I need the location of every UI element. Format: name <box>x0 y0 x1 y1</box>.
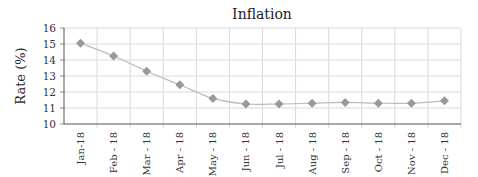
y-tick-label: 12 <box>43 86 56 98</box>
data-point-marker <box>308 99 317 108</box>
y-tick-label: 10 <box>43 118 56 130</box>
line-chart: Inflation Rate (%) 10111213141516 Jan-18… <box>0 0 478 177</box>
y-tick-label: 14 <box>43 54 57 66</box>
data-point-marker <box>440 96 449 105</box>
data-point-marker <box>175 80 184 89</box>
data-point-marker <box>142 67 151 76</box>
data-point-marker <box>374 99 383 108</box>
x-tick-label: Nov - 18 <box>406 132 417 175</box>
x-tick-label: Jul - 18 <box>274 132 285 169</box>
data-point-marker <box>109 52 118 61</box>
data-point-marker <box>341 98 350 107</box>
x-tick-label: Aug - 18 <box>307 132 318 176</box>
x-tick-label: Mar - 18 <box>141 132 152 175</box>
x-tick-label: May - 18 <box>207 132 218 176</box>
x-tick-label: Feb - 18 <box>108 132 119 173</box>
x-tick-label: Jun - 18 <box>240 132 251 172</box>
data-point-marker <box>241 100 250 109</box>
x-tick-label: Oct - 18 <box>373 132 384 172</box>
data-point-marker <box>275 100 284 109</box>
x-tick-label: Apr - 18 <box>174 132 185 174</box>
y-axis-label: Rate (%) <box>13 47 28 104</box>
data-point-marker <box>76 39 85 48</box>
y-axis-ticks: 10111213141516 <box>43 22 64 130</box>
x-axis-ticks: Jan-18Feb - 18Mar - 18Apr - 18May - 18Ju… <box>75 132 450 176</box>
x-tick-label: Dec - 18 <box>439 132 450 174</box>
x-tick-label: Sep - 18 <box>340 132 351 174</box>
data-point-marker <box>407 99 416 108</box>
y-tick-label: 13 <box>43 70 56 82</box>
data-point-marker <box>208 94 217 103</box>
grid-lines <box>64 28 461 128</box>
y-tick-label: 11 <box>43 102 56 114</box>
x-tick-label: Jan-18 <box>75 132 86 166</box>
y-tick-label: 16 <box>43 22 57 34</box>
chart-title: Inflation <box>232 6 292 22</box>
y-tick-label: 15 <box>43 38 56 50</box>
